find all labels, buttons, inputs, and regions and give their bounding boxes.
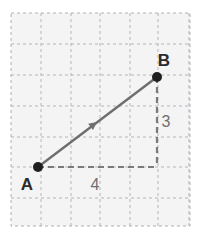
point-a-dot [33,162,43,172]
vertical-length-label: 3 [162,113,171,130]
point-b-label: B [158,51,170,70]
point-a-label: A [21,175,33,194]
diagram-canvas: A B 4 3 [0,0,203,247]
point-b-dot [152,72,162,82]
horizontal-length-label: 4 [91,176,100,193]
vector-diagram-figure: A B 4 3 [0,0,203,247]
